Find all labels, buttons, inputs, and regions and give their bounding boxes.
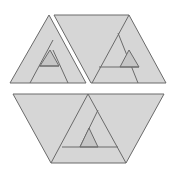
bottom-trapezoid-piece <box>13 94 164 163</box>
hexagon-puzzle-diagram <box>0 0 176 169</box>
